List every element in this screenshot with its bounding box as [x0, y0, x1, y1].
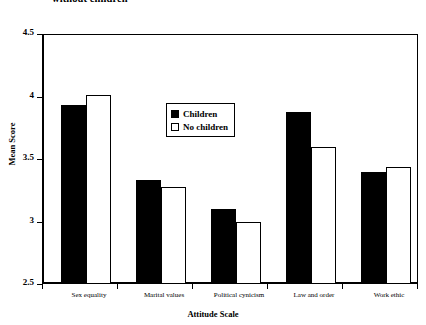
x-tick-mark — [342, 284, 343, 289]
y-tick-mark — [37, 97, 42, 98]
y-tick-mark — [37, 34, 42, 35]
bar-no-children-sex-equality — [86, 95, 111, 284]
y-axis-title: Mean Score — [7, 109, 17, 179]
bar-no-children-law-and-order — [311, 147, 336, 285]
x-tick-mark — [267, 284, 268, 289]
bar-no-children-political-cynicism — [236, 222, 261, 285]
bar-chart-figure: without children Mean Score 4.5 4 3.5 3 … — [0, 0, 426, 325]
legend-label-no-children: No children — [183, 122, 228, 132]
bar-no-children-work-ethic — [386, 167, 411, 285]
y-tick-2.5: 2.5 — [0, 284, 42, 285]
legend: Children No children — [166, 103, 235, 137]
y-tick-4.5: 4.5 — [0, 34, 42, 35]
x-tick-mark — [42, 284, 43, 289]
y-tick-label: 4 — [30, 90, 35, 100]
bar-children-work-ethic — [361, 172, 386, 285]
legend-label-children: Children — [183, 109, 217, 119]
legend-swatch-filled-icon — [171, 110, 179, 118]
x-tick-mark — [117, 284, 118, 289]
legend-item-no-children: No children — [171, 120, 228, 133]
y-tick-label: 2.5 — [23, 277, 34, 287]
y-tick-label: 3.5 — [23, 152, 34, 162]
x-tick-mark — [417, 284, 418, 289]
y-tick-mark — [37, 159, 42, 160]
x-tick-mark — [192, 284, 193, 289]
y-tick-label: 3 — [30, 215, 35, 225]
y-tick-3.5: 3.5 — [0, 159, 42, 160]
legend-item-children: Children — [171, 107, 228, 120]
bar-children-marital-values — [136, 180, 161, 284]
y-tick-4: 4 — [0, 97, 42, 98]
legend-swatch-open-icon — [171, 123, 179, 131]
bar-children-law-and-order — [286, 112, 311, 285]
bar-children-sex-equality — [61, 105, 86, 284]
bar-no-children-marital-values — [161, 187, 186, 285]
y-tick-label: 4.5 — [23, 27, 34, 37]
x-category-label-work-ethic: Work ethic — [339, 291, 426, 299]
page-title: without children — [52, 0, 128, 4]
y-tick-3: 3 — [0, 222, 42, 223]
bar-children-political-cynicism — [211, 209, 236, 284]
x-axis-title: Attitude Scale — [0, 309, 426, 319]
y-tick-mark — [37, 222, 42, 223]
